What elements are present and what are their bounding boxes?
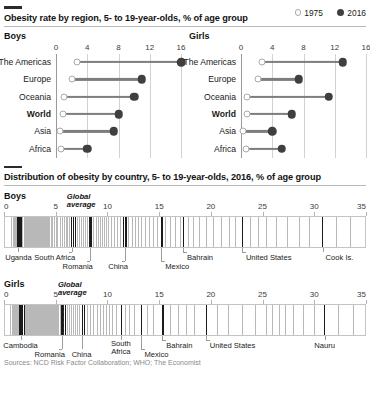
girls-marker-1975[interactable] xyxy=(244,93,251,100)
strip-title-boys: Boys xyxy=(4,191,366,201)
boys-strip-bar xyxy=(102,217,103,247)
girls-connector xyxy=(246,148,281,150)
girls-marker-2016[interactable] xyxy=(295,75,304,84)
girls-strip-bar-nauru[interactable] xyxy=(324,305,325,335)
girls-country-label-mexico[interactable]: Mexico xyxy=(145,350,169,359)
girls-leader-china xyxy=(82,336,83,349)
boys-country-label-cook-is-[interactable]: Cook Is. xyxy=(326,253,354,262)
girls-strip-bar xyxy=(65,305,66,335)
girls-strip-bar xyxy=(77,305,78,335)
boys-marker-1975[interactable] xyxy=(56,128,63,135)
boys-strip-bar xyxy=(57,217,58,247)
strip-plot-girls[interactable] xyxy=(4,304,366,336)
boys-row-the-americas[interactable]: The Americas xyxy=(56,54,181,71)
boys-marker-1975[interactable] xyxy=(58,145,65,152)
girls-strip-bar-china[interactable] xyxy=(82,305,83,335)
boys-country-label-mexico[interactable]: Mexico xyxy=(165,262,189,271)
girls-row-europe[interactable]: Europe xyxy=(241,71,366,88)
boys-strip-bar xyxy=(165,217,166,247)
girls-country-label-china[interactable]: China xyxy=(72,350,92,359)
legend-item-1975[interactable]: 1975 xyxy=(295,8,323,18)
girls-strip-bar-cambodia[interactable] xyxy=(21,305,22,335)
boys-row-world[interactable]: World xyxy=(56,106,181,123)
boys-leader-south-africa xyxy=(72,248,73,252)
boys-xtick-8: 8 xyxy=(116,43,120,52)
girls-marker-1975[interactable] xyxy=(244,111,251,118)
girls-row-the-americas[interactable]: The Americas xyxy=(241,54,366,71)
girls-strip-bar-united-states[interactable] xyxy=(206,305,207,335)
girls-country-label-south-africa[interactable]: SouthAfrica xyxy=(111,340,131,356)
girls-country-label-nauru[interactable]: Nauru xyxy=(314,341,335,350)
girls-country-label-romania[interactable]: Romania xyxy=(35,350,65,359)
girls-strip-bar-south-africa[interactable] xyxy=(121,305,122,335)
boys-leader-cook-is- xyxy=(323,248,324,252)
plot-area-girls: The AmericasEuropeOceaniaWorldAsiaAfrica xyxy=(241,54,366,158)
boys-strip-bar xyxy=(11,217,12,247)
boys-strip-bar xyxy=(85,217,86,247)
legend-item-2016[interactable]: 2016 xyxy=(337,8,366,18)
girls-marker-1975[interactable] xyxy=(243,145,250,152)
girls-strip-bar-mexico[interactable] xyxy=(141,305,142,335)
boys-row-asia[interactable]: Asia xyxy=(56,123,181,140)
boys-marker-1975[interactable] xyxy=(60,93,67,100)
girls-marker-2016[interactable] xyxy=(288,110,297,119)
boys-marker-2016[interactable] xyxy=(138,75,147,84)
girls-strip-bar xyxy=(106,305,107,335)
girls-strip-bar xyxy=(147,305,148,335)
boys-strip-bar xyxy=(170,217,171,247)
boys-row-europe[interactable]: Europe xyxy=(56,71,181,88)
boys-strip-bar xyxy=(123,217,124,247)
girls-country-label-cambodia[interactable]: Cambodia xyxy=(3,341,38,350)
boys-marker-2016[interactable] xyxy=(130,93,139,102)
girls-row-label: Oceania xyxy=(204,92,236,102)
boys-row-oceania[interactable]: Oceania xyxy=(56,88,181,105)
boys-country-label-china[interactable]: China xyxy=(108,262,128,271)
girls-row-label: Asia xyxy=(219,126,236,136)
girls-row-oceania[interactable]: Oceania xyxy=(241,88,366,105)
boys-marker-2016[interactable] xyxy=(83,145,92,154)
girls-marker-2016[interactable] xyxy=(268,127,277,136)
boys-marker-1975[interactable] xyxy=(69,76,76,83)
girls-country-label-bahrain[interactable]: Bahrain xyxy=(166,341,192,350)
boys-row-africa[interactable]: Africa xyxy=(56,140,181,157)
boys-strip-bar-south-africa[interactable] xyxy=(73,217,74,247)
girls-row-asia[interactable]: Asia xyxy=(241,123,366,140)
girls-marker-2016[interactable] xyxy=(324,93,333,102)
girls-xtick-35: 35 xyxy=(357,290,366,299)
boys-marker-1975[interactable] xyxy=(74,59,81,66)
boys-strip-bar-cook-is-[interactable] xyxy=(322,217,323,247)
boys-strip-bar-china[interactable] xyxy=(125,217,126,247)
girls-marker-1975[interactable] xyxy=(255,76,262,83)
boys-xtick-5: 5 xyxy=(53,202,57,211)
boys-leader-mexico xyxy=(161,248,162,261)
girls-marker-1975[interactable] xyxy=(240,128,247,135)
boys-strip-bar-uganda[interactable] xyxy=(19,217,20,247)
strip-plot-boys[interactable] xyxy=(4,216,366,248)
boys-marker-1975[interactable] xyxy=(60,111,67,118)
girls-row-world[interactable]: World xyxy=(241,106,366,123)
boys-country-label-romania[interactable]: Romania xyxy=(62,262,92,271)
girls-row-africa[interactable]: Africa xyxy=(241,140,366,157)
girls-marker-2016[interactable] xyxy=(277,145,286,154)
girls-marker-2016[interactable] xyxy=(338,58,347,67)
girls-marker-1975[interactable] xyxy=(259,59,266,66)
boys-xtick-0: 0 xyxy=(4,202,8,211)
x-axis-girls: 0481216 xyxy=(241,43,366,54)
boys-strip-bar-mexico[interactable] xyxy=(161,217,162,247)
boys-strip-bar-united-states[interactable] xyxy=(242,217,243,247)
boys-strip-bar-bahrain[interactable] xyxy=(183,217,184,247)
boys-country-label-bahrain[interactable]: Bahrain xyxy=(187,253,213,262)
girls-strip-bar xyxy=(84,305,85,335)
girls-strip-bar xyxy=(242,305,243,335)
boys-marker-2016[interactable] xyxy=(110,127,119,136)
girls-tickmark-35 xyxy=(366,300,367,304)
boys-country-label-uganda[interactable]: Uganda xyxy=(5,253,32,262)
girls-strip-bar-bahrain[interactable] xyxy=(162,305,163,335)
girls-country-label-united-states[interactable]: United States xyxy=(210,341,256,350)
boys-country-label-south-africa[interactable]: South Africa xyxy=(34,253,75,262)
boys-strip-bar xyxy=(49,217,50,247)
boys-strip-bar-romania[interactable] xyxy=(90,217,91,247)
boys-marker-2016[interactable] xyxy=(114,110,123,119)
girls-strip-bar xyxy=(134,305,135,335)
boys-country-label-united-states[interactable]: United States xyxy=(246,253,292,262)
